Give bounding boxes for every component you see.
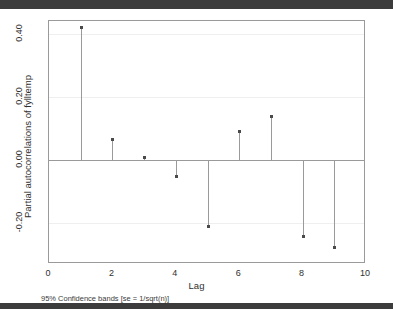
x-axis-tick-label: 0 [45, 268, 50, 278]
spike-bar [176, 160, 177, 176]
spike-bar [271, 116, 272, 160]
data-point-marker [270, 115, 273, 118]
scan-edge-band-bottom [0, 303, 393, 309]
scan-edge-band-top [0, 0, 393, 9]
x-axis-tick-label: 8 [299, 268, 304, 278]
data-point-marker [333, 246, 336, 249]
data-point-marker [302, 235, 305, 238]
x-axis-tick-label: 2 [109, 268, 114, 278]
gridline-horizontal [49, 34, 364, 35]
x-axis-tick-label: 4 [172, 268, 177, 278]
data-point-marker [175, 175, 178, 178]
pacf-chart-figure: 0.400.200.00-0.20 0246810 Partial autoco… [0, 0, 393, 309]
spike-bar [208, 160, 209, 226]
plot-area [48, 20, 365, 263]
data-point-marker [80, 26, 83, 29]
spike-bar [81, 27, 82, 160]
gridline-horizontal [49, 223, 364, 224]
spike-bar [112, 139, 113, 160]
gridline-horizontal [49, 97, 364, 98]
zero-reference-line [49, 160, 364, 161]
data-point-marker [143, 156, 146, 159]
x-axis-tick-label: 6 [236, 268, 241, 278]
x-axis-label: Lag [0, 280, 393, 291]
confidence-band-footnote: 95% Confidence bands [se = 1/sqrt(n)] [41, 294, 169, 303]
y-axis-label: Partial autocorrelations of fylltemp [22, 37, 33, 257]
spike-bar [334, 160, 335, 247]
spike-bar [303, 160, 304, 236]
x-axis-tick-label: 10 [360, 268, 370, 278]
figure-inner: 0.400.200.00-0.20 0246810 Partial autoco… [0, 9, 393, 303]
data-point-marker [111, 138, 114, 141]
spike-bar [239, 131, 240, 160]
data-point-marker [238, 130, 241, 133]
data-point-marker [207, 225, 210, 228]
